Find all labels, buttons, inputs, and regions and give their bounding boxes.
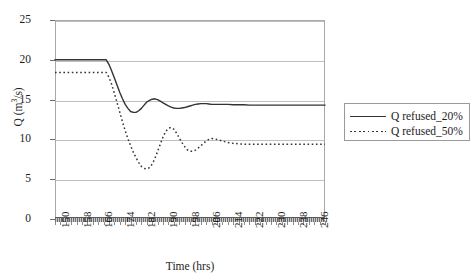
legend: Q refused_20% Q refused_50% [344, 103, 470, 141]
x-minor-tick [71, 222, 72, 225]
x-tick-label: 190 [168, 212, 179, 229]
x-minor-tick [222, 222, 223, 225]
legend-item: Q refused_20% [350, 108, 464, 123]
x-tick-label: 238 [298, 212, 309, 229]
y-axis-title: Q (m3/s) [10, 52, 24, 162]
x-minor-tick [228, 222, 229, 225]
x-minor-tick [136, 222, 137, 225]
series-layer [55, 20, 325, 219]
legend-line-dotted-icon [350, 126, 386, 136]
x-tick-label: 182 [146, 212, 157, 229]
x-minor-tick [249, 222, 250, 225]
x-minor-tick [158, 222, 159, 225]
x-minor-tick [98, 222, 99, 225]
x-minor-tick [163, 222, 164, 225]
legend-item-label: Q refused_50% [391, 125, 463, 137]
x-tick-label: 206 [211, 212, 222, 229]
legend-item: Q refused_50% [350, 123, 464, 138]
x-minor-tick [185, 222, 186, 225]
x-minor-tick [179, 222, 180, 225]
x-minor-tick [120, 222, 121, 225]
y-axis: 0510152025 Q (m3/s) [0, 0, 55, 280]
x-tick-label: 222 [254, 212, 265, 229]
x-tick-label: 230 [276, 212, 287, 229]
y-tick-label: 5 [0, 173, 31, 185]
y-tick-label: 25 [0, 14, 31, 26]
y-tick-label: 0 [0, 213, 31, 225]
x-minor-tick [287, 222, 288, 225]
x-minor-tick [314, 222, 315, 225]
x-tick-label: 158 [82, 212, 93, 229]
x-minor-tick [77, 222, 78, 225]
x-minor-tick [114, 222, 115, 225]
x-tick-label: 246 [319, 212, 330, 229]
x-tick-label: 166 [103, 212, 114, 229]
x-minor-tick [141, 222, 142, 225]
x-tick-label: 214 [233, 212, 244, 229]
x-minor-tick [244, 222, 245, 225]
x-minor-tick [293, 222, 294, 225]
x-tick-label: 174 [125, 212, 136, 229]
x-tick-label: 150 [60, 212, 71, 229]
x-minor-tick [206, 222, 207, 225]
series-line [55, 60, 325, 113]
chart-figure: 0510152025 Q (m3/s) 15015816617418219019… [0, 0, 473, 280]
series-line [55, 73, 325, 169]
x-axis-title: Time (hrs) [55, 260, 325, 272]
x-minor-tick [55, 222, 56, 225]
legend-item-label: Q refused_20% [391, 110, 463, 122]
x-minor-tick [271, 222, 272, 225]
x-minor-tick [266, 222, 267, 225]
x-tick-label: 198 [190, 212, 201, 229]
legend-line-solid-icon [350, 111, 386, 121]
